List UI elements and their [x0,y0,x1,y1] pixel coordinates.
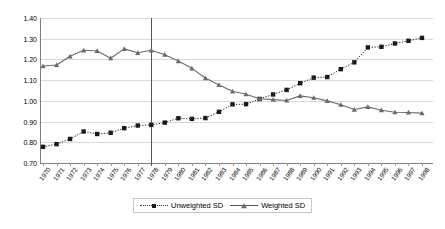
legend-entry-weighted: Weighted SD [230,201,305,210]
legend-label-weighted: Weighted SD [261,202,305,210]
data-point [163,120,167,124]
data-point [244,102,248,106]
data-point [284,88,288,92]
data-point [339,67,343,71]
data-point [217,110,221,114]
data-point [393,41,397,45]
data-point [230,102,234,106]
data-point [108,131,112,135]
data-point [312,75,316,79]
data-point [149,123,153,127]
data-point [54,142,58,146]
data-point [325,75,329,79]
data-point [41,145,45,149]
data-point [95,132,99,136]
data-point [216,82,221,87]
data-point [365,104,370,109]
data-point [81,129,85,133]
data-point [352,60,356,64]
legend-marker-square-icon [140,201,168,210]
data-point [68,137,72,141]
data-point [122,126,126,130]
data-point [149,48,154,53]
legend-entry-unweighted: Unweighted SD [140,201,223,210]
legend-marker-triangle-icon [230,201,258,210]
data-point [136,123,140,127]
data-point [406,39,410,43]
legend-label-unweighted: Unweighted SD [171,202,223,210]
data-point [176,116,180,120]
data-point [420,36,424,40]
data-point [271,92,275,96]
data-point [203,116,207,120]
data-point [298,81,302,85]
data-point [122,46,127,51]
data-point [379,45,383,49]
chart-container: 0.700.800.901.001.101.201.301.40 1970197… [0,0,445,229]
data-point [189,66,194,71]
data-point [366,45,370,49]
chart-legend: Unweighted SD Weighted SD [133,198,312,213]
data-series-layer [0,0,445,229]
data-point [190,117,194,121]
